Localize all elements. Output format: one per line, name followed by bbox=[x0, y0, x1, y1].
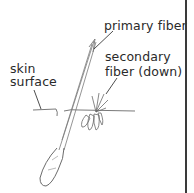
label-secondary-line1: secondary bbox=[105, 50, 171, 63]
feather-fiber-diagram: primary fiber secondary fiber (down) ski… bbox=[0, 0, 194, 193]
right-border-line bbox=[185, 0, 187, 193]
secondary-leader-line bbox=[106, 78, 117, 94]
skin-surface-line bbox=[33, 109, 135, 116]
label-skin-line2: surface bbox=[10, 75, 57, 88]
follicle-bulb bbox=[40, 148, 64, 186]
primary-fiber-shaft bbox=[59, 41, 96, 150]
secondary-fiber-cluster bbox=[82, 93, 109, 130]
skin-leader-line bbox=[34, 90, 41, 109]
label-secondary-line2: fiber (down) bbox=[105, 65, 182, 78]
label-primary-fiber: primary fiber bbox=[104, 19, 187, 32]
primary-leader-line bbox=[94, 31, 113, 49]
